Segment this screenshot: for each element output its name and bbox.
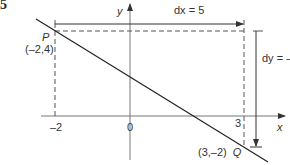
- figure-number: 5: [0, 0, 7, 12]
- tick-3: 3: [235, 117, 241, 129]
- x-axis-label: x: [276, 121, 283, 133]
- point-q-name: Q: [233, 146, 242, 158]
- y-axis-label: y: [116, 5, 124, 17]
- point-p-name: P: [42, 31, 50, 43]
- point-q-label: (3,–2) Q: [198, 146, 242, 158]
- line-pq: [36, 19, 268, 162]
- tick-origin: 0: [127, 121, 133, 133]
- point-p-coords: (–2,4): [25, 43, 54, 55]
- point-q-coords: (3,–2): [198, 146, 227, 158]
- dy-label: dy = –: [262, 52, 290, 64]
- dx-label: dx = 5: [174, 4, 204, 16]
- line-diagram: 5 y x dx = 5 dy = – P (–2,4) –2 0 3 (3,–…: [0, 0, 290, 165]
- tick-minus-2: –2: [50, 121, 62, 133]
